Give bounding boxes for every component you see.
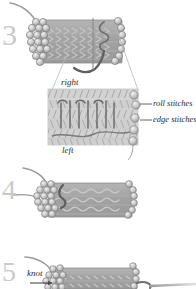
step-4-illustration: [14, 168, 137, 218]
beadwork-instruction-figure: 3 4 5 right left roll stitches edge stit…: [0, 0, 196, 289]
needle-step5: [150, 284, 196, 286]
step-number-5: 5: [2, 258, 16, 286]
beadwork-diagram-svg: [0, 0, 196, 289]
bead-row: [48, 90, 138, 98]
label-left: left: [62, 146, 74, 155]
step-5-illustration: [25, 257, 196, 289]
label-roll-stitches: roll stitches: [153, 99, 193, 108]
step-number-4: 4: [2, 176, 16, 204]
label-knot: knot: [27, 269, 43, 278]
thread-tail-detail: [128, 145, 133, 160]
working-thread-step5: [137, 282, 151, 288]
label-edge-stitches: edge stitches: [153, 115, 196, 124]
label-right: right: [61, 78, 79, 87]
bead-cluster-left-step5: [43, 265, 67, 289]
step-number-3: 3: [2, 20, 17, 50]
step-3-illustration: [10, 3, 126, 72]
